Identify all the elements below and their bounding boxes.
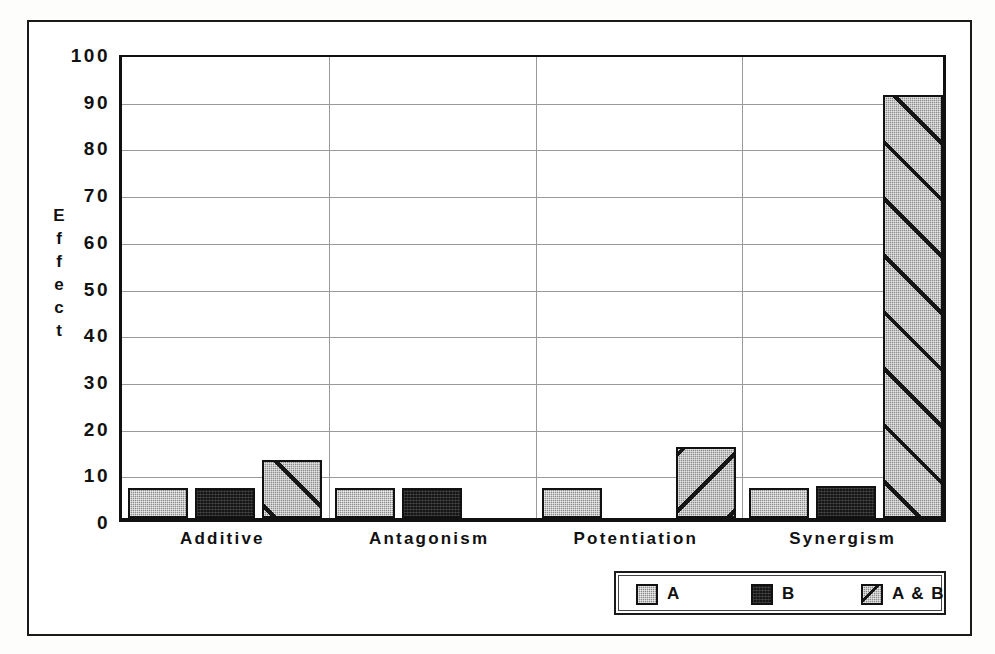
y-axis-tick-label: 80	[84, 139, 110, 158]
bar-series-a-synergism	[749, 488, 809, 518]
y-axis-tick-label: 10	[84, 466, 110, 485]
legend-entry-series-a: A	[636, 582, 681, 606]
bar-hatch-pattern	[676, 447, 736, 518]
legend-entry-series-b: B	[751, 582, 796, 606]
x-axis-label-antagonism: Antagonism	[326, 528, 533, 550]
plot-area	[119, 55, 946, 522]
bar-hatch-pattern	[262, 460, 322, 518]
bar-series-ab-synergism	[883, 95, 943, 518]
y-axis-tick-label: 30	[84, 372, 110, 391]
bar-series-ab-potentiation	[676, 447, 736, 518]
legend-label-series-a: A	[667, 584, 681, 604]
bar-series-ab-additive	[262, 460, 322, 518]
chart-figure: E f f e c t 0102030405060708090100 Addit…	[0, 0, 995, 654]
x-axis-category-labels: AdditiveAntagonismPotentiationSynergism	[119, 528, 946, 556]
legend-swatch-series-a	[636, 584, 658, 605]
bar-series-b-synergism	[816, 486, 876, 518]
y-axis-tick-label: 100	[71, 46, 110, 65]
x-axis-label-synergism: Synergism	[739, 528, 946, 550]
y-axis-tick-label: 0	[97, 513, 110, 532]
y-axis-tick-label: 40	[84, 326, 110, 345]
x-axis-label-potentiation: Potentiation	[533, 528, 740, 550]
bar-series-a-antagonism	[335, 488, 395, 518]
x-axis-label-additive: Additive	[119, 528, 326, 550]
bars-layer	[122, 57, 943, 518]
legend-swatch-hatch	[861, 584, 883, 605]
legend-swatch-series-b	[751, 584, 773, 605]
legend-entry-series-ab: A & B	[861, 582, 945, 606]
y-axis-tick-label: 70	[84, 186, 110, 205]
legend-label-series-b: B	[782, 584, 796, 604]
bar-series-a-additive	[128, 488, 188, 518]
legend-label-series-ab: A & B	[892, 584, 945, 604]
y-axis-tick-label: 90	[84, 92, 110, 111]
y-axis-tick-label: 20	[84, 419, 110, 438]
y-axis-tick-label: 60	[84, 232, 110, 251]
y-axis-tick-labels: 0102030405060708090100	[42, 55, 110, 522]
bar-series-a-potentiation	[542, 488, 602, 518]
bar-series-b-antagonism	[402, 488, 462, 518]
chart-legend: ABA & B	[614, 571, 946, 615]
y-axis-tick-label: 50	[84, 279, 110, 298]
bar-series-b-additive	[195, 488, 255, 518]
bar-hatch-pattern	[883, 95, 943, 518]
legend-swatch-series-ab	[861, 584, 883, 605]
